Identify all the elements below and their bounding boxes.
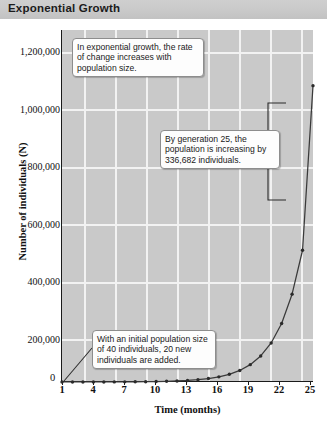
- x-tick-label: 13: [175, 384, 197, 395]
- y-tick-label: 400,000: [2, 276, 60, 287]
- x-axis-title: Time (months): [62, 404, 313, 415]
- gridline-horizontal: [62, 109, 313, 111]
- annotation-callout-top: In exponential growth, the rate of chang…: [72, 38, 204, 77]
- figure-header-bar: Exponential Growth: [0, 0, 327, 19]
- gridline-vertical: [301, 30, 303, 382]
- x-tick-label: 1: [51, 384, 73, 395]
- y-tick-label: 600,000: [2, 219, 60, 230]
- gridline-vertical: [84, 30, 86, 382]
- gridline-vertical: [239, 30, 241, 382]
- chart-figure: Exponential Growth 1,200,000 1,000,000 8…: [0, 0, 327, 424]
- annotation-callout-middle: By generation 25, the population is incr…: [160, 130, 280, 169]
- annotation-callout-bottom: With an initial population size of 40 in…: [92, 330, 216, 369]
- x-tick-label: 22: [268, 384, 290, 395]
- gridline-vertical: [270, 30, 272, 382]
- y-tick-label: 200,000: [2, 334, 60, 345]
- y-tick-label: 1,200,000: [2, 46, 60, 57]
- x-tick-label: 4: [82, 384, 104, 395]
- y-axis-title: Number of individuals (N): [17, 122, 28, 282]
- x-tick-label: 19: [237, 384, 259, 395]
- x-tick-label: 16: [206, 384, 228, 395]
- y-tick-label: 800,000: [2, 161, 60, 172]
- gridline-horizontal: [62, 224, 313, 226]
- x-tick-label: 7: [113, 384, 135, 395]
- gridline-horizontal: [62, 282, 313, 284]
- x-tick-label: 25: [299, 384, 321, 395]
- page-title: Exponential Growth: [8, 2, 120, 14]
- x-tick-label: 10: [144, 384, 166, 395]
- y-axis-line: [61, 30, 62, 382]
- y-axis-origin-label: 0: [50, 372, 55, 383]
- y-tick-label: 1,000,000: [2, 104, 60, 115]
